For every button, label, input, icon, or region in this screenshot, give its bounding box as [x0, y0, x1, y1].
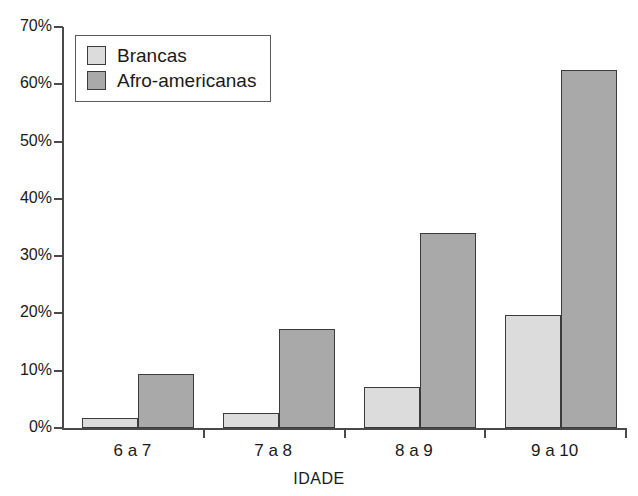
bar [420, 233, 476, 428]
x-axis-group-label: 7 a 8 [203, 442, 344, 460]
x-axis-tick [625, 429, 627, 438]
y-axis-tick [54, 312, 63, 314]
legend-label-brancas: Brancas [117, 46, 187, 66]
bar [364, 387, 420, 428]
legend-swatch-brancas [87, 46, 106, 65]
legend-swatch-afro-americanas [87, 71, 106, 90]
y-axis-tick [54, 83, 63, 85]
bar-chart-figure: 0%10%20%30%40%50%60%70% 6 a 77 a 88 a 99… [0, 0, 638, 496]
bar [138, 374, 194, 428]
legend-label-afro-americanas: Afro-americanas [117, 71, 256, 91]
legend-item-afro-americanas: Afro-americanas [87, 68, 256, 93]
x-axis-group-label: 9 a 10 [484, 442, 625, 460]
bar [223, 413, 279, 428]
bar [505, 315, 561, 428]
chart-legend: Brancas Afro-americanas [75, 35, 271, 102]
legend-item-brancas: Brancas [87, 43, 256, 68]
x-axis-group-label: 6 a 7 [62, 442, 203, 460]
y-axis-tick-label: 20% [4, 304, 52, 320]
y-axis-tick [54, 427, 63, 429]
y-axis-tick [54, 26, 63, 28]
y-axis-tick-label: 10% [4, 362, 52, 378]
y-axis-tick-label: 0% [4, 419, 52, 435]
x-axis-title: IDADE [0, 470, 638, 487]
bar [279, 329, 335, 428]
y-axis-tick [54, 141, 63, 143]
x-axis-tick [484, 429, 486, 438]
x-axis-group-label: 8 a 9 [344, 442, 485, 460]
x-axis-tick [344, 429, 346, 438]
y-axis-tick-label: 60% [4, 75, 52, 91]
y-axis-tick [54, 255, 63, 257]
y-axis-tick [54, 198, 63, 200]
bar [82, 418, 138, 428]
x-axis-tick [203, 429, 205, 438]
y-axis-tick-label: 40% [4, 190, 52, 206]
y-axis-tick-label: 30% [4, 247, 52, 263]
y-axis-tick-label: 50% [4, 133, 52, 149]
y-axis-tick-label: 70% [4, 18, 52, 34]
y-axis-tick-labels: 0%10%20%30%40%50%60%70% [0, 0, 52, 496]
y-axis-tick [54, 370, 63, 372]
bar [561, 70, 617, 428]
